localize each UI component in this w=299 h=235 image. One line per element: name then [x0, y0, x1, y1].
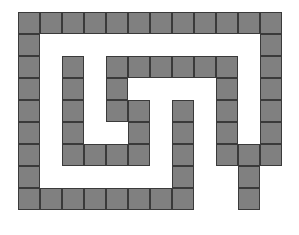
maze-cell-r0-c10: [238, 12, 260, 34]
maze-cell-r8-c6: [150, 188, 172, 210]
maze-cell-r2-c9: [216, 56, 238, 78]
maze-cell-r6-c9: [216, 144, 238, 166]
maze-cell-r0-c4: [106, 12, 128, 34]
maze-cell-r6-c2: [62, 144, 84, 166]
maze-cell-r4-c5: [128, 100, 150, 122]
maze-cell-r2-c0: [18, 56, 40, 78]
maze-cell-r4-c4: [106, 100, 128, 122]
maze-cell-r8-c3: [84, 188, 106, 210]
maze-cell-r2-c11: [260, 56, 282, 78]
maze-cell-r5-c0: [18, 122, 40, 144]
maze-cell-r0-c8: [194, 12, 216, 34]
maze-cell-r8-c10: [238, 188, 260, 210]
maze-cell-r8-c1: [40, 188, 62, 210]
maze-cell-r3-c4: [106, 78, 128, 100]
maze-cell-r0-c11: [260, 12, 282, 34]
maze-cell-r2-c2: [62, 56, 84, 78]
maze-cell-r3-c0: [18, 78, 40, 100]
maze-cell-r8-c2: [62, 188, 84, 210]
maze-cell-r0-c5: [128, 12, 150, 34]
maze-cell-r2-c7: [172, 56, 194, 78]
maze-cell-r0-c6: [150, 12, 172, 34]
maze-cell-r0-c1: [40, 12, 62, 34]
maze-cell-r6-c11: [260, 144, 282, 166]
maze-cell-r8-c5: [128, 188, 150, 210]
maze-cell-r5-c5: [128, 122, 150, 144]
maze-cell-r2-c4: [106, 56, 128, 78]
maze-cell-r8-c4: [106, 188, 128, 210]
maze-cell-r2-c6: [150, 56, 172, 78]
maze-cell-r0-c9: [216, 12, 238, 34]
maze-cell-r1-c11: [260, 34, 282, 56]
maze-cell-r5-c11: [260, 122, 282, 144]
maze-cell-r4-c9: [216, 100, 238, 122]
maze-cell-r7-c7: [172, 166, 194, 188]
maze-cell-r6-c10: [238, 144, 260, 166]
maze-figure: [0, 0, 299, 235]
maze-cell-r5-c9: [216, 122, 238, 144]
maze-cell-r7-c10: [238, 166, 260, 188]
maze-cell-r0-c7: [172, 12, 194, 34]
maze-cell-r4-c7: [172, 100, 194, 122]
maze-cell-r0-c3: [84, 12, 106, 34]
maze-cell-r6-c0: [18, 144, 40, 166]
maze-cell-r8-c7: [172, 188, 194, 210]
maze-cell-r4-c2: [62, 100, 84, 122]
maze-cell-r2-c5: [128, 56, 150, 78]
maze-cell-r8-c0: [18, 188, 40, 210]
maze-cell-r4-c0: [18, 100, 40, 122]
maze-cell-r0-c2: [62, 12, 84, 34]
maze-cell-r3-c11: [260, 78, 282, 100]
maze-cell-r5-c7: [172, 122, 194, 144]
maze-cell-r2-c8: [194, 56, 216, 78]
maze-cell-r6-c3: [84, 144, 106, 166]
maze-cell-r1-c0: [18, 34, 40, 56]
maze-cell-r4-c11: [260, 100, 282, 122]
maze-cell-r3-c2: [62, 78, 84, 100]
maze-cell-r6-c5: [128, 144, 150, 166]
maze-cell-r6-c7: [172, 144, 194, 166]
maze-cell-r7-c0: [18, 166, 40, 188]
maze-cell-r0-c0: [18, 12, 40, 34]
maze-cell-r5-c2: [62, 122, 84, 144]
maze-cell-r6-c4: [106, 144, 128, 166]
maze-cell-r3-c9: [216, 78, 238, 100]
